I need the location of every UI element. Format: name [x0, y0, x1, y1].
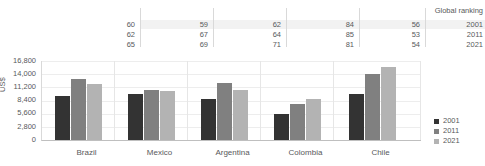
bar-group-brazil	[55, 61, 102, 140]
column-divider	[140, 8, 141, 47]
legend: 2001 2011 2021	[434, 117, 460, 147]
y-axis-tick: 0	[0, 136, 36, 144]
table-row-year: 2001	[443, 20, 483, 29]
column-divider	[286, 8, 287, 47]
global-ranking-table: Global ranking 60 59 62 84 56 2001 62 67…	[0, 0, 485, 47]
bar-argentina-2001	[201, 99, 216, 140]
bar-mexico-2021	[160, 91, 175, 140]
y-axis-tick: 16,800	[0, 57, 36, 65]
bar-argentina-2011	[217, 83, 232, 140]
bar-mexico-2001	[128, 94, 143, 140]
x-axis-label-argentina: Argentina	[200, 148, 265, 157]
y-axis-tick: 5,600	[0, 109, 36, 117]
x-axis-label-chile: Chile	[348, 148, 413, 157]
table-cell: 65	[95, 40, 135, 49]
bar-chile-2001	[349, 94, 364, 140]
legend-swatch-icon	[434, 129, 439, 134]
bar-brazil-2021	[87, 84, 102, 140]
column-divider	[359, 8, 360, 47]
table-cell: 56	[380, 20, 420, 29]
legend-label: 2021	[443, 137, 460, 145]
bar-brazil-2001	[55, 96, 70, 140]
x-axis-label-brazil: Brazil	[54, 148, 119, 157]
bar-group-argentina	[201, 61, 248, 140]
bar-colombia-2011	[290, 104, 305, 140]
bar-chile-2011	[365, 74, 380, 140]
table-cell: 62	[95, 30, 135, 39]
group-divider	[333, 61, 334, 140]
column-divider	[213, 8, 214, 47]
bar-mexico-2011	[144, 90, 159, 140]
legend-label: 2011	[443, 127, 459, 135]
column-divider	[425, 8, 426, 47]
table-cell: 81	[314, 40, 354, 49]
table-cell: 67	[168, 30, 208, 39]
group-divider	[114, 61, 115, 140]
table-cell: 54	[380, 40, 420, 49]
legend-swatch-icon	[434, 119, 439, 124]
group-divider	[260, 61, 261, 140]
bar-group-mexico	[128, 61, 175, 140]
bar-group-colombia	[274, 61, 321, 140]
table-cell: 62	[241, 20, 281, 29]
table-cell: 84	[314, 20, 354, 29]
bar-group-chile	[349, 61, 396, 140]
x-axis-label-mexico: Mexico	[127, 148, 192, 157]
bar-chile-2021	[381, 67, 396, 140]
global-ranking-header: Global ranking	[428, 6, 483, 15]
legend-item-2001: 2001	[434, 117, 460, 125]
x-axis-label-colombia: Colombia	[273, 148, 338, 157]
chart-container: Global ranking 60 59 62 84 56 2001 62 67…	[0, 0, 485, 166]
table-cell: 64	[241, 30, 281, 39]
y-axis-tick: 8,400	[0, 96, 36, 104]
legend-item-2021: 2021	[434, 137, 460, 145]
group-divider	[187, 61, 188, 140]
bar-colombia-2001	[274, 114, 289, 140]
table-cell: 71	[241, 40, 281, 49]
legend-label: 2001	[443, 117, 460, 125]
table-cell: 53	[380, 30, 420, 39]
table-cell: 60	[95, 20, 135, 29]
y-axis-tick: 14,000	[0, 70, 36, 78]
table-cell: 69	[168, 40, 208, 49]
bar-argentina-2021	[233, 90, 248, 140]
bar-brazil-2011	[71, 79, 86, 140]
legend-item-2011: 2011	[434, 127, 460, 135]
y-axis-tick: 2,800	[0, 123, 36, 131]
plot-area	[41, 61, 421, 141]
table-row-year: 2011	[443, 30, 483, 39]
table-row-year: 2021	[443, 40, 483, 49]
group-divider	[420, 61, 421, 140]
bar-colombia-2021	[306, 99, 321, 140]
y-axis-tick: 11,200	[0, 83, 36, 91]
table-cell: 85	[314, 30, 354, 39]
table-cell: 59	[168, 20, 208, 29]
legend-swatch-icon	[434, 139, 439, 144]
